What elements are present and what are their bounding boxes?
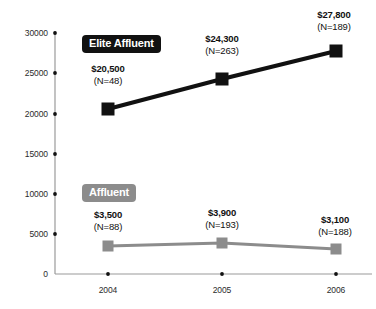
data-label-value: $24,300 <box>176 33 268 45</box>
y-axis-tick-label-15000: 15000 <box>4 149 48 159</box>
series-badge-affluent: Affluent <box>82 184 136 202</box>
data-label-value: $3,900 <box>176 207 268 219</box>
x-axis-tick-label-2006: 2006 <box>311 285 361 295</box>
data-label-count: (N=189) <box>288 21 376 33</box>
y-tick-25000 <box>53 71 57 75</box>
y-tick-20000 <box>53 112 57 116</box>
data-label-count: (N=263) <box>176 45 268 57</box>
x-axis-tick-label-2004: 2004 <box>83 285 133 295</box>
y-tick-5000 <box>53 232 57 236</box>
y-tick-15000 <box>53 152 57 156</box>
y-axis-tick-label-25000: 25000 <box>4 68 48 78</box>
x-axis-tick-label-2005: 2005 <box>197 285 247 295</box>
y-tick-30000 <box>53 31 57 35</box>
marker-affluent-2004 <box>103 241 114 252</box>
data-label-value: $20,500 <box>62 63 154 75</box>
data-label-count: (N=193) <box>176 219 268 231</box>
data-label-value: $27,800 <box>288 9 376 21</box>
x-tick-2005 <box>220 272 224 276</box>
x-tick-2006 <box>334 272 338 276</box>
data-label-elite-affluent-2005: $24,300 (N=263) <box>176 33 268 57</box>
marker-elite-affluent-2004 <box>102 103 115 116</box>
x-tick-2004 <box>106 272 110 276</box>
y-axis-tick-label-0: 0 <box>4 269 48 279</box>
y-axis-tick-label-30000: 30000 <box>4 28 48 38</box>
data-label-value: $3,500 <box>62 209 154 221</box>
data-label-affluent-2005: $3,900 (N=193) <box>176 207 268 231</box>
marker-affluent-2006 <box>331 244 342 255</box>
data-label-elite-affluent-2006: $27,800 (N=189) <box>288 9 376 33</box>
marker-affluent-2005 <box>217 238 228 249</box>
y-axis-tick-label-10000: 10000 <box>4 189 48 199</box>
data-label-affluent-2004: $3,500 (N=88) <box>62 209 154 233</box>
series-badge-elite-affluent: Elite Affluent <box>82 35 161 53</box>
marker-elite-affluent-2005 <box>216 73 229 86</box>
data-label-elite-affluent-2004: $20,500 (N=48) <box>62 63 154 87</box>
data-label-count: (N=48) <box>62 75 154 87</box>
y-axis-tick-label-5000: 5000 <box>4 229 48 239</box>
y-axis-tick-label-20000: 20000 <box>4 109 48 119</box>
data-label-value: $3,100 <box>289 214 376 226</box>
data-label-affluent-2006: $3,100 (N=188) <box>289 214 376 238</box>
data-label-count: (N=88) <box>62 221 154 233</box>
line-chart: 30000 25000 20000 15000 10000 5000 0 200… <box>0 0 376 309</box>
marker-elite-affluent-2006 <box>330 45 343 58</box>
data-label-count: (N=188) <box>289 226 376 238</box>
y-tick-10000 <box>53 192 57 196</box>
